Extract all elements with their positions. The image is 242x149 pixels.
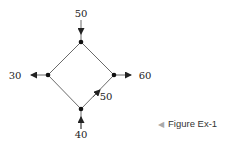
node-top bbox=[79, 40, 84, 45]
edge-top-left bbox=[48, 42, 81, 75]
edge-top-right bbox=[81, 42, 114, 75]
edge-left-bottom bbox=[48, 75, 81, 109]
label-top-in: 50 bbox=[75, 8, 88, 19]
label-bottom-in: 40 bbox=[75, 129, 88, 140]
caption-text: Figure Ex-1 bbox=[168, 118, 217, 129]
node-right bbox=[112, 73, 117, 78]
figure-caption: ◀Figure Ex-1 bbox=[158, 118, 217, 129]
node-left bbox=[46, 73, 51, 78]
label-bottom-right-edge: 50 bbox=[100, 91, 113, 102]
caption-marker-icon: ◀ bbox=[158, 120, 164, 129]
label-left-out: 30 bbox=[9, 70, 22, 81]
node-bottom bbox=[79, 107, 84, 112]
label-right-out: 60 bbox=[139, 70, 152, 81]
